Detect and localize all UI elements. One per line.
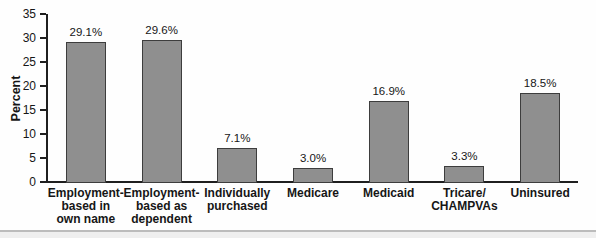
bar xyxy=(66,42,106,183)
y-tick-label: 30 xyxy=(0,31,36,45)
bar xyxy=(142,40,182,183)
bar-value-label: 18.5% xyxy=(510,76,570,90)
y-tick-label: 20 xyxy=(0,79,36,93)
y-tick-mark xyxy=(40,13,46,15)
bar-value-label: 16.9% xyxy=(359,84,419,98)
y-tick-label: 0 xyxy=(0,175,36,189)
y-tick-label: 5 xyxy=(0,151,36,165)
bar xyxy=(217,148,257,183)
bar xyxy=(369,101,409,183)
y-tick-mark xyxy=(40,157,46,159)
y-tick-mark xyxy=(40,109,46,111)
footer-band xyxy=(0,232,596,238)
y-tick-mark xyxy=(40,85,46,87)
y-tick-mark xyxy=(40,181,46,183)
bar xyxy=(520,93,560,183)
y-tick-mark xyxy=(40,61,46,63)
bar-value-label: 29.1% xyxy=(56,25,116,39)
x-category-label: Uninsured xyxy=(496,187,584,200)
bar-value-label: 3.3% xyxy=(434,149,494,163)
bar-value-label: 3.0% xyxy=(283,151,343,165)
y-tick-mark xyxy=(40,37,46,39)
y-axis-title: Percent xyxy=(9,67,24,131)
bar-value-label: 7.1% xyxy=(207,131,267,145)
bar xyxy=(444,166,484,183)
y-axis-line xyxy=(46,14,48,182)
y-tick-label: 25 xyxy=(0,55,36,69)
y-tick-label: 35 xyxy=(0,7,36,21)
y-tick-label: 10 xyxy=(0,127,36,141)
insurance-coverage-bar-chart: Percent 0510152025303529.1%Employment- b… xyxy=(0,0,596,238)
bar xyxy=(293,168,333,183)
bar-value-label: 29.6% xyxy=(132,23,192,37)
y-tick-label: 15 xyxy=(0,103,36,117)
y-tick-mark xyxy=(40,133,46,135)
